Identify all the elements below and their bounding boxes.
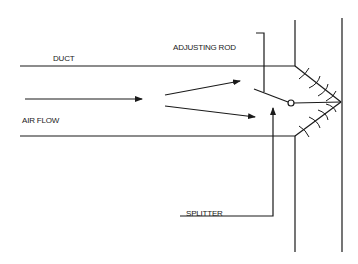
duct-bottom-taper (295, 102, 341, 136)
duct-label: DUCT (53, 54, 74, 63)
lower-flow-arrow (165, 106, 255, 117)
diagram-drawing (0, 0, 358, 264)
splitter-leader (180, 108, 273, 216)
upper-flow-arrow (165, 81, 240, 95)
splitter-blade (254, 89, 288, 102)
splitter-pivot (288, 100, 294, 106)
splitter-label: SPLITTER (186, 209, 223, 218)
adjusting-rod-leader (256, 33, 264, 92)
lower-turning-vanes (299, 104, 336, 137)
splitter-damper-diagram: DUCT ADJUSTING ROD AIR FLOW SPLITTER (0, 0, 358, 264)
duct-top-taper (295, 66, 341, 102)
air-flow-label: AIR FLOW (22, 116, 59, 125)
splitter-centerline (294, 102, 341, 103)
adjusting-rod-label: ADJUSTING ROD (173, 43, 236, 52)
